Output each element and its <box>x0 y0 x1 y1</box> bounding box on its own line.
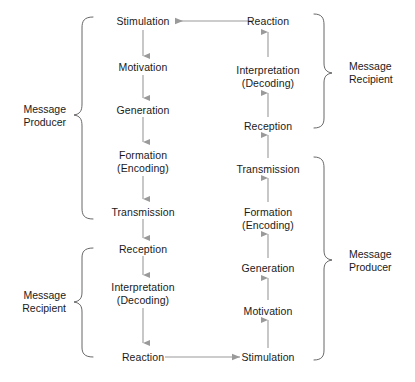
node-right-reception: Reception <box>244 120 292 133</box>
brace-right-top <box>314 14 332 128</box>
communication-cycle-diagram: Stimulation Motivation Generation Format… <box>0 0 415 382</box>
brace-right-bottom <box>314 157 332 360</box>
node-right-transmission: Transmission <box>236 163 299 176</box>
node-right-reaction: Reaction <box>247 15 289 28</box>
group-label-right-top: Message Recipient <box>349 60 393 86</box>
node-left-motivation: Motivation <box>119 61 168 74</box>
brace-left-top <box>74 17 93 219</box>
node-left-formation: Formation (Encoding) <box>117 149 169 174</box>
node-right-motivation: Motivation <box>244 305 293 318</box>
group-label-left-bottom: Message Recipient <box>22 289 66 315</box>
diagram-connectors <box>0 0 415 382</box>
group-label-right-bottom: Message Producer <box>349 248 392 274</box>
node-left-stimulation: Stimulation <box>116 15 169 28</box>
node-left-interpretation: Interpretation (Decoding) <box>111 281 174 306</box>
node-right-generation: Generation <box>242 262 295 275</box>
node-right-formation: Formation (Encoding) <box>242 206 294 231</box>
node-right-stimulation: Stimulation <box>241 351 294 364</box>
node-left-transmission: Transmission <box>111 206 174 219</box>
brace-left-bottom <box>74 248 93 357</box>
node-left-generation: Generation <box>117 104 170 117</box>
node-left-reception: Reception <box>119 243 167 256</box>
node-right-interpretation: Interpretation (Decoding) <box>236 64 299 89</box>
node-left-reaction: Reaction <box>122 351 164 364</box>
group-label-left-top: Message Producer <box>23 103 66 129</box>
